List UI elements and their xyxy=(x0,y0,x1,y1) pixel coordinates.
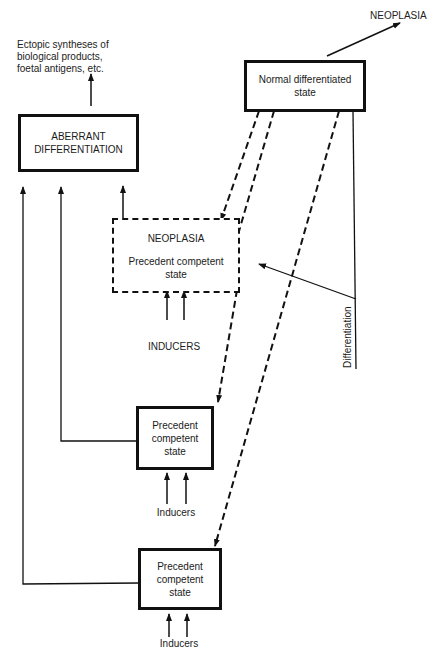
ectopic-line-2: biological products, xyxy=(17,51,109,63)
diagram-edges xyxy=(0,0,446,656)
precedent-mid-label: Precedent competent state xyxy=(139,419,211,458)
ectopic-label: Ectopic syntheses of biological products… xyxy=(17,39,109,75)
precedent-competent-state-bottom-box: Precedent competent state xyxy=(138,548,222,610)
precedent-bottom-line-2: competent xyxy=(141,573,219,586)
aberrant-label: ABERRANT DIFFERENTIATION xyxy=(21,130,136,156)
neoplasia-box-body: Precedent competent state xyxy=(114,255,238,281)
precedent-bottom-label: Precedent competent state xyxy=(141,560,219,599)
inducers-bottom-label: Inducers xyxy=(149,638,209,650)
precedent-bottom-line-3: state xyxy=(141,586,219,599)
neoplasia-top-label: NEOPLASIA xyxy=(370,10,427,22)
inducers-mid-label: Inducers xyxy=(146,507,206,519)
ectopic-line-1: Ectopic syntheses of xyxy=(17,39,109,51)
neoplasia-precedent-box: NEOPLASIA Precedent competent state xyxy=(112,218,240,293)
aberrant-differentiation-box: ABERRANT DIFFERENTIATION xyxy=(18,114,139,172)
neoplasia-box-title: NEOPLASIA xyxy=(114,233,238,244)
arrow-normal-to-neoplasia xyxy=(327,23,400,56)
aberrant-line-1: ABERRANT xyxy=(21,130,136,143)
precedent-bottom-line-1: Precedent xyxy=(141,560,219,573)
neoplasia-box-line-1: Precedent competent xyxy=(114,255,238,268)
precedent-mid-line-1: Precedent xyxy=(139,419,211,432)
precedent-mid-line-3: state xyxy=(139,445,211,458)
normal-label: Normal differentiated state xyxy=(247,73,363,99)
dashed-arrow-normal-to-precedent-bottom xyxy=(215,111,339,546)
dashed-arrow-to-precedent-mid xyxy=(218,290,237,402)
aberrant-line-2: DIFFERENTIATION xyxy=(21,143,136,156)
neoplasia-box-line-2: state xyxy=(114,268,238,281)
precedent-mid-line-2: competent xyxy=(139,432,211,445)
precedent-competent-state-mid-box: Precedent competent state xyxy=(136,406,214,470)
inducers-caps-label: INDUCERS xyxy=(144,341,204,353)
dashed-line-normal-to-neoplasia-box-right xyxy=(237,111,274,238)
normal-differentiated-state-box: Normal differentiated state xyxy=(244,60,366,112)
differentiation-label: Differentiation xyxy=(342,306,353,368)
arrow-differentiation-to-neoplasia xyxy=(259,264,356,299)
ectopic-line-3: foetal antigens, etc. xyxy=(17,63,109,75)
dashed-arrow-normal-to-neoplasia-box xyxy=(221,111,259,220)
differentiation-line xyxy=(353,111,356,369)
